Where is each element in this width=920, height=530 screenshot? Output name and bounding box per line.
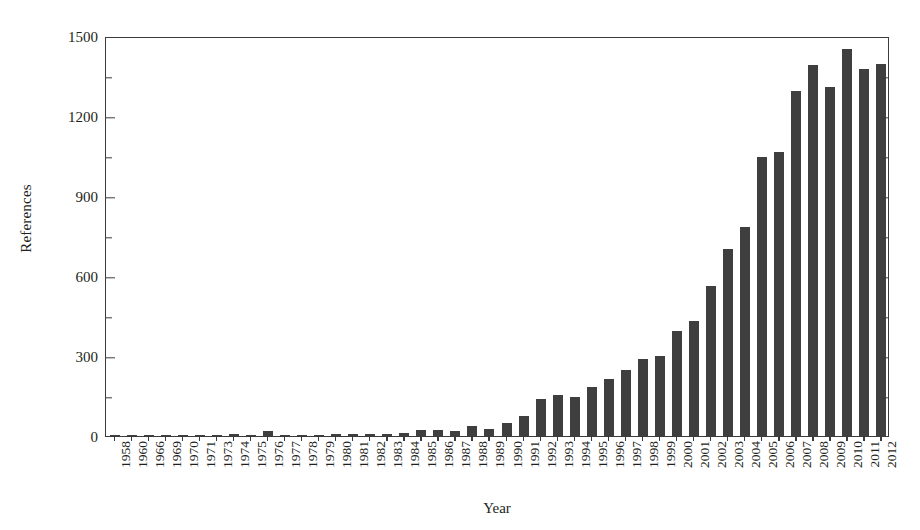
bar: [553, 395, 563, 436]
y-tick-major: [106, 277, 115, 278]
bar: [229, 434, 239, 436]
y-tick-major: [106, 197, 115, 198]
y-tick-minor: [106, 237, 112, 238]
bar: [484, 429, 494, 436]
bar: [195, 435, 205, 437]
bar: [808, 65, 818, 436]
x-tick-label: 1969: [170, 441, 184, 468]
x-tick-label: 1971: [204, 441, 218, 468]
x-tick-label: 1980: [340, 441, 354, 468]
bar: [723, 249, 733, 436]
x-tick-label: 1960: [136, 441, 150, 468]
x-tick-label: 2004: [749, 441, 763, 468]
y-tick-label: 900: [40, 190, 98, 205]
bar: [178, 435, 188, 437]
x-tick-label: 2006: [783, 441, 797, 468]
bar-chart-figure: References 030060090012001500 1958196019…: [0, 0, 920, 530]
y-tick-minor-right: [882, 237, 888, 238]
y-tick-minor: [106, 157, 112, 158]
bar: [859, 69, 869, 436]
bar: [382, 434, 392, 436]
x-tick-label: 1999: [664, 441, 678, 468]
bar: [399, 433, 409, 436]
y-tick-label: 0: [40, 430, 98, 445]
y-tick-minor: [106, 397, 112, 398]
bar: [706, 286, 716, 436]
x-tick-label: 1976: [272, 441, 286, 468]
x-tick-label: 2003: [732, 441, 746, 468]
x-axis-title: Year: [105, 500, 889, 517]
bar: [774, 152, 784, 436]
bar: [263, 431, 273, 436]
bar: [297, 435, 307, 437]
x-tick-label: 2009: [834, 441, 848, 468]
bar: [604, 379, 614, 436]
y-tick-major-right: [879, 197, 888, 198]
x-tick-label: 1984: [408, 441, 422, 468]
bar: [757, 157, 767, 436]
y-tick-major-right: [879, 277, 888, 278]
x-tick-label: 1993: [562, 441, 576, 468]
x-axis-tick-labels: 1958196019661969197019711973197419751976…: [105, 441, 889, 499]
x-tick-label: 1997: [630, 441, 644, 468]
x-tick-label: 1996: [613, 441, 627, 468]
x-tick-label: 1977: [289, 441, 303, 468]
bar: [331, 434, 341, 436]
x-tick-label: 1987: [459, 441, 473, 468]
bar: [655, 356, 665, 436]
y-tick-minor-right: [882, 397, 888, 398]
bar: [689, 321, 699, 436]
bar: [348, 434, 358, 436]
bar: [536, 399, 546, 436]
bar: [876, 64, 886, 436]
bar: [127, 435, 137, 437]
y-tick-major-right: [879, 117, 888, 118]
x-tick-label: 2001: [698, 441, 712, 468]
bar: [212, 435, 222, 437]
x-tick-label: 2008: [817, 441, 831, 468]
x-tick-label: 2012: [885, 441, 899, 468]
x-tick-label: 1995: [596, 441, 610, 468]
bar: [161, 435, 171, 437]
x-tick-label: 2002: [715, 441, 729, 468]
bar: [450, 431, 460, 436]
x-tick-label: 1974: [238, 441, 252, 468]
bar: [638, 359, 648, 436]
y-tick-label: 300: [40, 350, 98, 365]
bar: [433, 430, 443, 436]
bar: [672, 331, 682, 436]
bar: [621, 370, 631, 436]
bar: [502, 423, 512, 436]
y-tick-minor-right: [882, 317, 888, 318]
y-tick-label: 1200: [40, 110, 98, 125]
y-tick-label: 1500: [40, 30, 98, 45]
x-tick-label: 1985: [425, 441, 439, 468]
bar: [791, 91, 801, 436]
y-tick-minor-right: [882, 157, 888, 158]
bar: [144, 435, 154, 437]
x-tick-label: 1986: [442, 441, 456, 468]
x-tick-label: 2005: [766, 441, 780, 468]
bar: [110, 435, 120, 437]
x-tick-label: 1975: [255, 441, 269, 468]
x-tick-label: 1978: [306, 441, 320, 468]
bar: [740, 227, 750, 436]
y-tick-major-right: [879, 357, 888, 358]
bar: [365, 434, 375, 436]
x-tick-label: 2007: [800, 441, 814, 468]
x-tick-label: 1991: [528, 441, 542, 468]
bar: [570, 397, 580, 436]
x-tick-label: 1979: [323, 441, 337, 468]
x-tick-label: 2000: [681, 441, 695, 468]
bar: [825, 87, 835, 436]
y-tick-major: [106, 357, 115, 358]
y-tick-major: [106, 117, 115, 118]
y-tick-label: 600: [40, 270, 98, 285]
x-tick-label: 1990: [511, 441, 525, 468]
x-tick-label: 1981: [357, 441, 371, 468]
x-tick-label: 1982: [374, 441, 388, 468]
bar: [280, 435, 290, 437]
y-axis-title-text: References: [18, 184, 35, 253]
x-tick-label: 1966: [153, 441, 167, 468]
x-tick-label: 2010: [851, 441, 865, 468]
